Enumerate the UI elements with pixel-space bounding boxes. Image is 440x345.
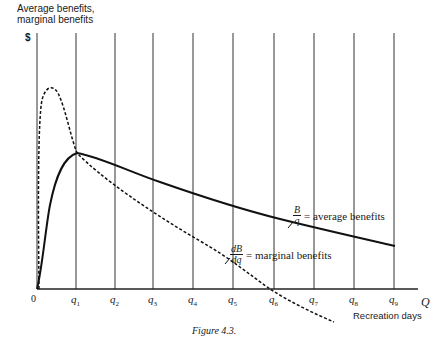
tick-q7: q7 — [309, 293, 318, 308]
x-axis-symbol: Q — [421, 295, 430, 310]
tick-q2: q2 — [110, 293, 119, 308]
tick-q3: q3 — [148, 293, 157, 308]
tick-q6: q6 — [269, 293, 278, 308]
avg-frac-den: q — [295, 216, 300, 226]
avg-annotation-text: = average benefits — [304, 210, 385, 222]
marginal-benefits-annotation: dBdq = marginal benefits — [230, 244, 332, 265]
x-axis-label: Recreation days — [353, 310, 422, 321]
tick-q5: q5 — [228, 293, 237, 308]
tick-q8: q8 — [349, 293, 358, 308]
tick-q4: q4 — [188, 293, 197, 308]
average-benefits-annotation: Bq = average benefits — [293, 205, 385, 226]
origin-label: 0 — [31, 293, 36, 304]
marginal-benefits-curve — [38, 88, 334, 322]
chart-plot — [0, 0, 440, 345]
mb-annotation-text: = marginal benefits — [246, 249, 331, 261]
tick-q9: q9 — [389, 293, 398, 308]
mb-frac-den: dq — [232, 255, 242, 265]
tick-q1: q1 — [71, 293, 80, 308]
figure-caption: Figure 4.3. — [192, 325, 236, 336]
